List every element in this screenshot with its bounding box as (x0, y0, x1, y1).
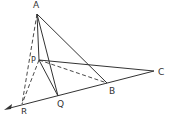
label-b: B (109, 86, 115, 96)
edge-p-q (39, 60, 58, 96)
edge-a-q (37, 14, 58, 96)
edge-p-c (39, 60, 154, 71)
label-c: C (158, 67, 164, 77)
label-q: Q (57, 99, 64, 109)
label-a: A (33, 0, 40, 10)
edge-a-b (37, 14, 107, 83)
arrowhead-icon (4, 104, 12, 110)
geometry-diagram: A P C B Q R (0, 0, 170, 114)
label-r: R (21, 107, 27, 114)
edge-p-r-dashed (22, 60, 39, 104)
edge-c-r-line (10, 71, 154, 108)
label-p: P (31, 56, 36, 65)
